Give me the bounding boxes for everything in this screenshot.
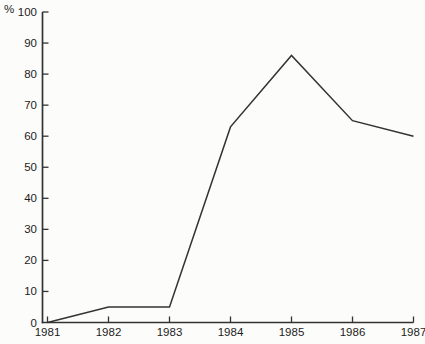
y-tick-label: 80 [24, 68, 37, 80]
y-tick-label: 50 [24, 161, 37, 173]
x-tick-label: 1981 [35, 326, 61, 338]
y-tick-label: 90 [24, 37, 37, 49]
x-tick-label: 1983 [157, 326, 183, 338]
line-chart-canvas: 0102030405060708090100198119821983198419… [0, 0, 425, 344]
data-line [48, 55, 414, 322]
y-tick-label: 70 [24, 99, 37, 111]
y-tick-label: 100 [18, 6, 37, 18]
x-tick-label: 1987 [401, 326, 425, 338]
y-tick-label: 40 [24, 192, 37, 204]
y-tick-label: 60 [24, 130, 37, 142]
x-tick-label: 1985 [279, 326, 305, 338]
x-tick-label: 1984 [218, 326, 244, 338]
x-tick-label: 1986 [340, 326, 366, 338]
y-tick-label: 10 [24, 285, 37, 297]
y-tick-label: 20 [24, 254, 37, 266]
y-tick-label: 30 [24, 223, 37, 235]
x-tick-label: 1982 [96, 326, 122, 338]
chart-figure: % 01020304050607080901001981198219831984… [0, 0, 425, 344]
